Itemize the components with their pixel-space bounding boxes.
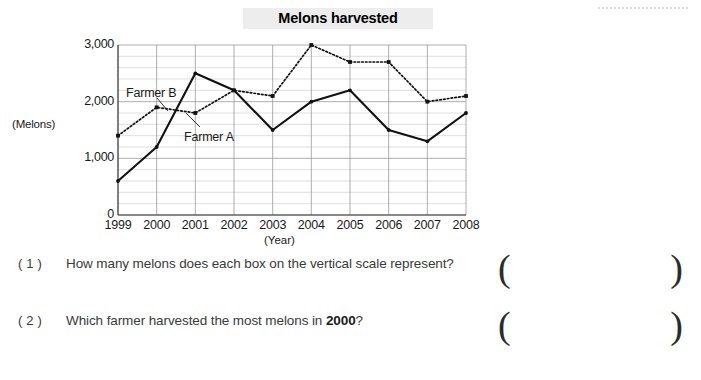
series-annotation-farmer-a: Farmer A (184, 130, 234, 144)
y-axis-tick-labels: 01,0002,0003,000 (58, 0, 114, 250)
top-dotted-rule-decoration (598, 7, 688, 12)
chart-series-lines (118, 45, 466, 215)
question-2-text-after: ? (356, 313, 363, 328)
y-axis-tick-3000: 3,000 (84, 37, 114, 51)
paren-open-icon: ( (498, 249, 511, 287)
y-axis-tick-2000: 2,000 (84, 94, 114, 108)
question-row-1: ( 1 ) How many melons does each box on t… (18, 256, 683, 280)
paren-close-icon: ) (670, 249, 683, 287)
question-1-text: How many melons does each box on the ver… (66, 256, 454, 271)
question-2-text-bold: 2000 (326, 313, 356, 328)
worksheet-page: Melons harvested (Melons) 01,0002,0003,0… (0, 0, 701, 380)
question-2-text-before: Which farmer harvested the most melons i… (66, 313, 326, 328)
series-annotation-farmer-b: Farmer B (126, 86, 177, 100)
question-1-number: ( 1 ) (18, 256, 42, 271)
x-axis-tick-2005: 2005 (336, 218, 363, 232)
plot-area (118, 45, 466, 215)
x-axis-tick-2008: 2008 (452, 218, 479, 232)
x-axis-tick-2003: 2003 (259, 218, 286, 232)
y-axis-tick-1000: 1,000 (84, 150, 114, 164)
x-axis-tick-2002: 2002 (220, 218, 247, 232)
paren-open-icon: ( (498, 306, 511, 344)
chart-container: Melons harvested (Melons) 01,0002,0003,0… (0, 0, 530, 250)
x-axis-tick-2000: 2000 (143, 218, 170, 232)
question-1-answer-blank[interactable]: ( ) (498, 249, 683, 289)
x-axis-tick-2006: 2006 (375, 218, 402, 232)
question-row-2: ( 2 ) Which farmer harvested the most me… (18, 313, 683, 337)
question-2-number: ( 2 ) (18, 313, 42, 328)
x-axis-caption: (Year) (264, 234, 295, 246)
y-axis-caption: (Melons) (12, 118, 55, 130)
chart-title: Melons harvested (243, 8, 433, 29)
question-2-text: Which farmer harvested the most melons i… (66, 313, 363, 328)
x-axis-tick-1999: 1999 (104, 218, 131, 232)
x-axis-tick-2004: 2004 (298, 218, 325, 232)
x-axis-tick-2007: 2007 (414, 218, 441, 232)
paren-close-icon: ) (670, 306, 683, 344)
x-axis-tick-2001: 2001 (182, 218, 209, 232)
question-2-answer-blank[interactable]: ( ) (498, 306, 683, 346)
